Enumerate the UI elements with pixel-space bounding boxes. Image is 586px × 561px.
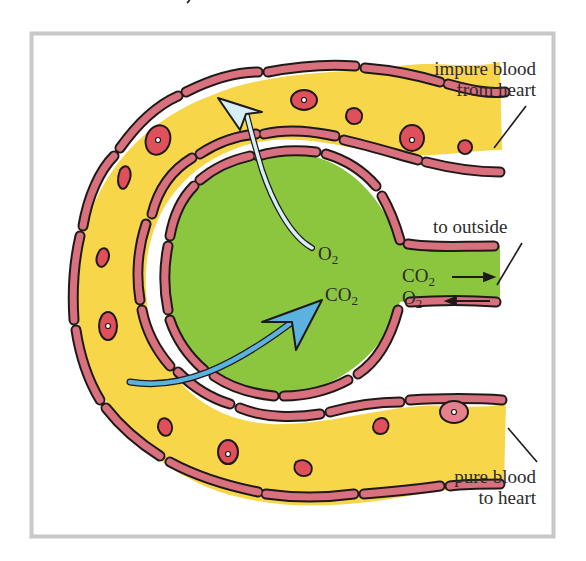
diagram-stage: impure blood from heart to outside CO2 O… [0, 0, 586, 561]
o2-in-sub: 2 [416, 296, 423, 311]
co2-out-sub: 2 [428, 274, 435, 289]
pure-blood-line1: pure blood [412, 466, 536, 487]
co2-out-base: CO [402, 265, 428, 286]
impure-blood-label: impure blood from heart [412, 58, 536, 100]
impure-blood-line2: from heart [412, 79, 536, 100]
impure-blood-line1: impure blood [412, 58, 536, 79]
co2-inner-base: CO [325, 284, 351, 305]
pure-blood-label: pure blood to heart [412, 466, 536, 508]
co2-inner-sub: 2 [351, 293, 358, 308]
o2-inner-label: O2 [318, 244, 338, 270]
co2-inner-label: CO2 [325, 285, 358, 311]
to-outside-label: to outside [433, 216, 507, 237]
o2-in-label: O2 [402, 288, 422, 314]
o2-inner-base: O [318, 243, 332, 264]
o2-in-base: O [402, 287, 416, 308]
o2-inner-sub: 2 [332, 252, 339, 267]
pure-blood-line2: to heart [412, 487, 536, 508]
